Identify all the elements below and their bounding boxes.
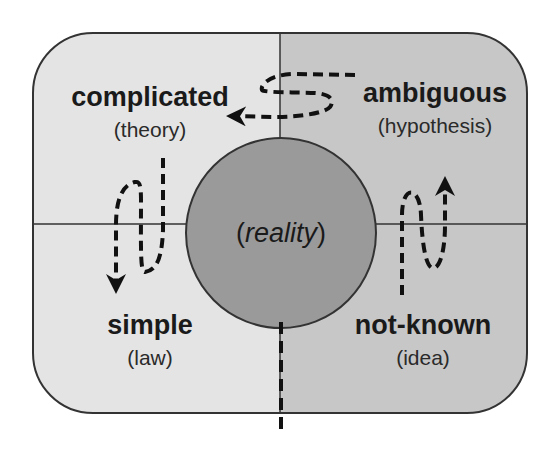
quadrant-subtitle-hypothesis: (hypothesis) [350,114,520,138]
center-label-reality: (reality) [200,218,362,248]
quadrant-title-complicated: complicated [48,82,252,112]
center-open-paren: ( [236,218,245,248]
quadrant-title-simple: simple [88,310,212,340]
quadrant-title-ambiguous: ambiguous [338,78,532,108]
quadrant-subtitle-theory: (theory) [98,118,202,142]
center-word: reality [245,218,317,248]
center-close-paren: ) [317,218,326,248]
quadrant-title-not-known: not-known [328,310,518,340]
quadrant-subtitle-idea: (idea) [378,346,468,370]
quadrant-subtitle-law: (law) [110,346,190,370]
